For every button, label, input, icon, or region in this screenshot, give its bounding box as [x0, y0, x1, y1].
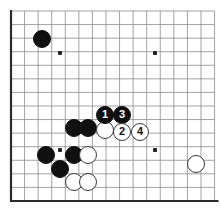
- stone-move-number: 2: [119, 126, 125, 137]
- star-point: [58, 51, 62, 55]
- star-point: [153, 148, 157, 152]
- stone-move-number: 1: [102, 109, 108, 120]
- stone-move-number: 4: [137, 126, 143, 137]
- star-point: [58, 148, 62, 152]
- star-point: [153, 51, 157, 55]
- board-grid: [0, 0, 220, 211]
- go-diagram: 1324: [0, 0, 220, 211]
- stone-move-number: 3: [119, 109, 125, 120]
